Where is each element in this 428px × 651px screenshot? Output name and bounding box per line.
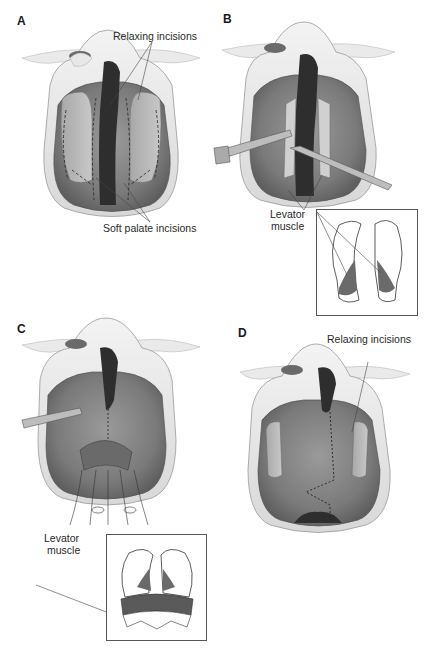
label-levator-c-line2: muscle — [47, 544, 80, 556]
panel-label-b: B — [223, 12, 232, 26]
panel-a-drawing — [22, 30, 200, 222]
panel-label-c: C — [17, 322, 26, 336]
label-relaxing-incisions-a: Relaxing incisions — [113, 30, 197, 42]
label-levator-b-line1: Levator — [270, 208, 305, 220]
label-levator-b-line2: muscle — [271, 220, 304, 232]
panel-label-a: A — [17, 14, 26, 28]
label-relaxing-incisions-d: Relaxing incisions — [327, 333, 411, 345]
panel-d-drawing — [240, 344, 410, 533]
levator-muscle-diagram-b — [317, 210, 417, 315]
inset-b-levator-detail — [316, 209, 418, 316]
panel-label-d: D — [238, 326, 247, 340]
label-levator-c-line1: Levator — [44, 532, 79, 544]
label-soft-palate-incisions: Soft palate incisions — [103, 222, 196, 234]
levator-muscle-diagram-c — [107, 535, 206, 640]
inset-c-levator-detail — [106, 534, 207, 641]
panel-b-drawing — [214, 22, 395, 210]
